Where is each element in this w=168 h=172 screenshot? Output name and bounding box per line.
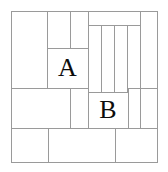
label-a: A xyxy=(47,48,88,88)
rect-bottom-left xyxy=(12,129,48,162)
rect-right-tall-strip xyxy=(141,12,157,88)
rect-column-2 xyxy=(102,26,114,92)
squared-rectangle-figure: AB xyxy=(0,0,168,172)
label-b: B xyxy=(88,92,128,128)
rect-bottom-right xyxy=(116,129,157,162)
rect-right-lower xyxy=(129,89,157,128)
rect-mid-left xyxy=(12,89,70,128)
rect-mid-center xyxy=(71,89,88,128)
rect-column-3 xyxy=(115,26,127,92)
rect-top-left-tall xyxy=(12,12,47,88)
rect-column-4 xyxy=(128,26,140,92)
rect-column-1 xyxy=(89,26,101,92)
rect-top-strip-right xyxy=(71,12,88,48)
rect-bottom-center xyxy=(49,129,115,162)
rect-top-strip-left xyxy=(48,12,70,48)
rect-top-right-band xyxy=(89,12,140,25)
